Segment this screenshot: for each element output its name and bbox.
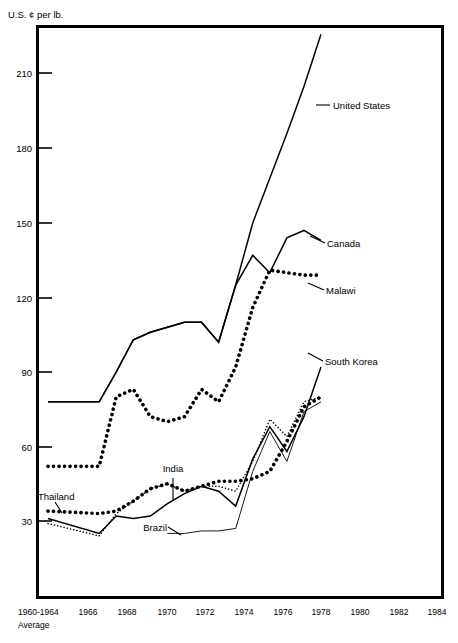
x-tick-1982: 1982	[390, 607, 409, 617]
series-leader-lines	[55, 105, 330, 535]
y-tick-180: 180	[16, 143, 32, 154]
y-tick-30: 30	[21, 516, 32, 527]
leader-south-korea	[308, 353, 323, 361]
series-path-malawi	[48, 270, 321, 466]
series-path-india	[48, 397, 321, 514]
y-tick-labels: 210 180 150 120 90 60 30	[16, 68, 32, 527]
series-labels: United States Canada Malawi South Korea …	[38, 100, 390, 533]
line-chart: U.S. ¢ per lb. 210 180 150 120 90 60 30 …	[0, 0, 458, 643]
y-tick-120: 120	[16, 293, 32, 304]
y-tick-150: 150	[16, 218, 32, 229]
series-label-canada: Canada	[327, 238, 361, 249]
series-label-malawi: Malawi	[326, 285, 356, 296]
series-path-canada	[48, 230, 321, 401]
x-tick-1976: 1976	[274, 607, 293, 617]
leader-canada	[310, 236, 325, 243]
x-tick-1960-1964: 1960-1964	[18, 607, 59, 617]
x-tick-labels: 1960-1964 Average 1966 1968 1970 1972 19…	[18, 607, 447, 630]
series-label-brazil: Brazil	[143, 522, 167, 533]
x-tick-1970: 1970	[158, 607, 177, 617]
x-tick-1966: 1966	[79, 607, 98, 617]
x-tick-1968: 1968	[118, 607, 137, 617]
y-tick-60: 60	[21, 442, 32, 453]
x-tick-1974: 1974	[235, 607, 254, 617]
x-tick-1984: 1984	[428, 607, 447, 617]
x-tick-1980: 1980	[351, 607, 370, 617]
x-tick-1978: 1978	[312, 607, 331, 617]
series-path-united-states	[48, 34, 321, 402]
x-tick-average: Average	[18, 620, 50, 630]
series-label-south-korea: South Korea	[325, 356, 379, 367]
chart-container: U.S. ¢ per lb. 210 180 150 120 90 60 30 …	[0, 0, 458, 643]
y-tick-210: 210	[16, 68, 32, 79]
y-tick-90: 90	[21, 367, 32, 378]
y-axis-title: U.S. ¢ per lb.	[8, 9, 63, 20]
series-label-india: India	[163, 463, 184, 474]
leader-malawi	[308, 283, 324, 290]
x-tick-1972: 1972	[196, 607, 215, 617]
y-tick-marks	[38, 73, 52, 521]
series-label-thailand: Thailand	[38, 491, 74, 502]
series-lines	[48, 34, 321, 536]
series-label-united-states: United States	[333, 100, 390, 111]
